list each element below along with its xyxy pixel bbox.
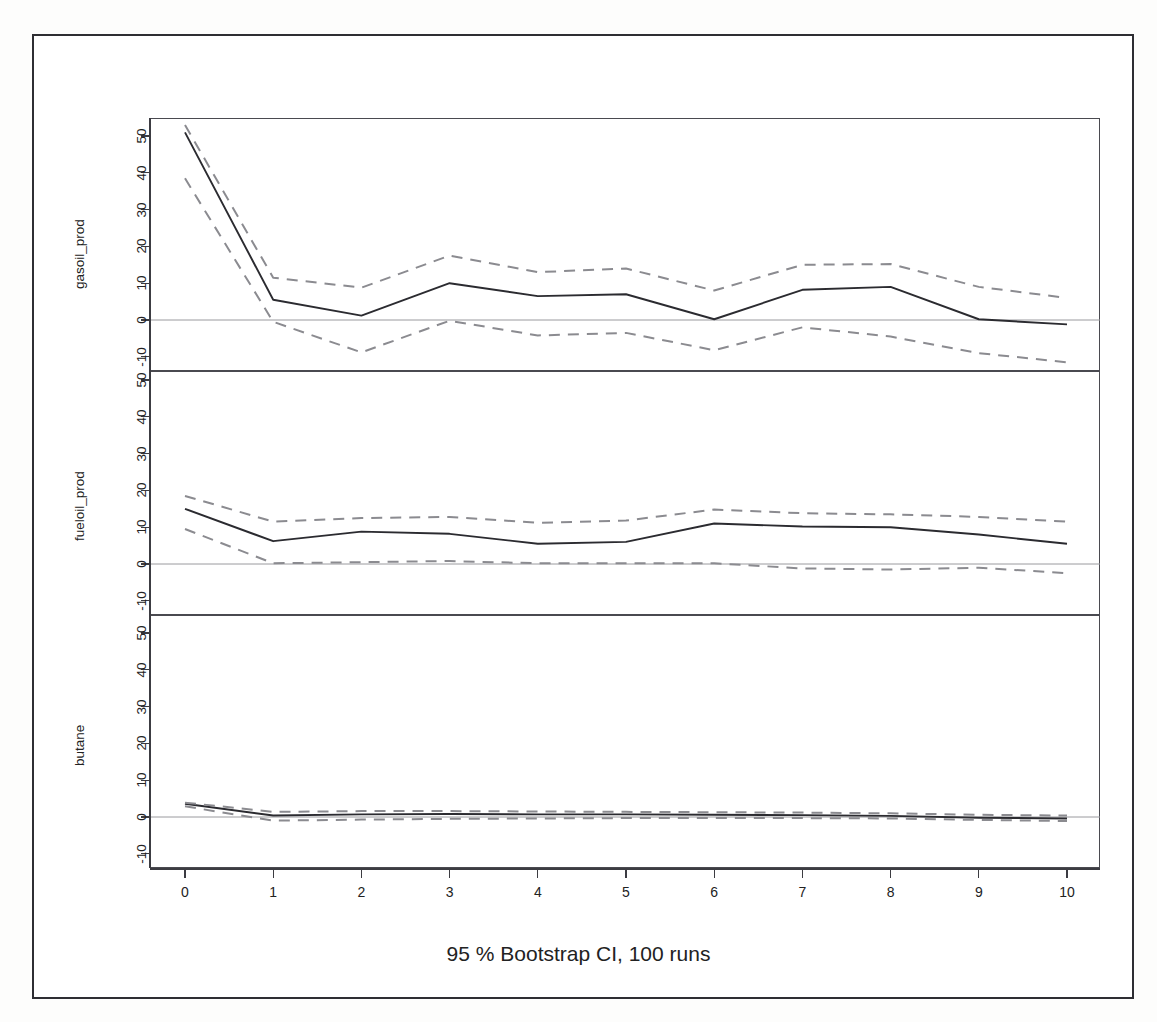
x-axis-tick	[625, 869, 626, 878]
panel-plot-area	[150, 118, 1100, 371]
y-axis-spine	[149, 615, 151, 868]
y-axis-tick-label: 20	[134, 239, 149, 254]
y-axis-tick-label: 40	[134, 165, 149, 180]
x-axis-tick-label: 9	[975, 884, 983, 900]
x-axis-tick-label: 5	[622, 884, 630, 900]
x-axis-tick-label: 4	[534, 884, 542, 900]
y-axis-tick-label: 10	[134, 276, 149, 291]
x-axis-tick	[802, 869, 803, 878]
y-axis-tick-label: 10	[134, 773, 149, 788]
x-axis-tick	[714, 869, 715, 878]
panel-gasoil-prod	[150, 118, 1100, 371]
panel-plot-area	[150, 615, 1100, 868]
y-axis-tick-label: -10	[134, 844, 149, 864]
y-axis-tick-label: 10	[134, 520, 149, 535]
y-axis-tick-label: -10	[134, 347, 149, 367]
y-axis-tick-label: 40	[134, 662, 149, 677]
x-axis-tick-label: 8	[887, 884, 895, 900]
x-axis-tick	[1066, 869, 1067, 878]
y-axis-tick-label: 50	[134, 372, 149, 387]
y-axis-tick-label: 0	[134, 813, 149, 821]
panel-plot-area	[150, 371, 1100, 615]
x-axis-tick-label: 0	[181, 884, 189, 900]
x-axis-tick-label: 6	[710, 884, 718, 900]
x-axis-tick-label: 10	[1059, 884, 1075, 900]
chart-caption: 95 % Bootstrap CI, 100 runs	[0, 942, 1157, 966]
series-line-ci	[185, 178, 1067, 362]
x-axis-tick-label: 3	[446, 884, 454, 900]
panel-axis-label: butane	[72, 724, 87, 765]
y-axis-tick-label: -10	[134, 591, 149, 611]
y-axis-spine	[149, 118, 151, 371]
y-axis-tick-label: 20	[134, 483, 149, 498]
x-axis-tick	[978, 869, 979, 878]
series-line-ci	[185, 125, 1067, 298]
x-axis-tick	[273, 869, 274, 878]
x-axis-tick-label: 2	[357, 884, 365, 900]
y-axis-tick-label: 50	[134, 128, 149, 143]
x-axis-tick	[449, 869, 450, 878]
panel-butane	[150, 615, 1100, 868]
y-axis-tick-label: 50	[134, 625, 149, 640]
x-axis-tick	[890, 869, 891, 878]
series-line-impulse	[185, 132, 1067, 324]
x-axis-tick-label: 7	[798, 884, 806, 900]
y-axis-tick-label: 20	[134, 736, 149, 751]
y-axis-tick-label: 30	[134, 202, 149, 217]
y-axis-tick-label: 0	[134, 316, 149, 324]
series-line-ci	[185, 496, 1067, 523]
panel-axis-label: fueloil_prod	[72, 471, 87, 541]
y-axis-tick-label: 30	[134, 699, 149, 714]
series-line-impulse	[185, 509, 1067, 544]
y-axis-tick-label: 30	[134, 446, 149, 461]
x-axis-tick-label: 1	[269, 884, 277, 900]
y-axis-tick-label: 0	[134, 560, 149, 568]
y-axis-spine	[149, 371, 151, 615]
panel-axis-label: gasoil_prod	[72, 219, 87, 289]
y-axis-tick-label: 40	[134, 409, 149, 424]
x-axis-tick	[184, 869, 185, 878]
x-axis-tick	[537, 869, 538, 878]
panel-fueloil-prod	[150, 371, 1100, 615]
x-axis-tick	[361, 869, 362, 878]
x-axis-spine	[150, 868, 1100, 870]
chart-figure: Orthogonal Impulse Response from oil_pro…	[0, 0, 1157, 1022]
